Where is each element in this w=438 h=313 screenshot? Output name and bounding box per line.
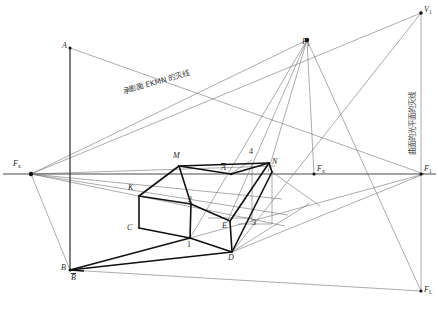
point-label-FL: FL bbox=[424, 286, 432, 294]
edge-C-1 bbox=[139, 228, 190, 238]
thin-construction-lines bbox=[31, 13, 424, 291]
shadow-B-to-1 bbox=[70, 238, 190, 270]
point-label-2: 2 bbox=[188, 196, 192, 204]
dot-Fx bbox=[29, 172, 33, 176]
point-label-Bbar: B bbox=[71, 273, 76, 282]
point-label-F1b: F1 bbox=[424, 165, 432, 173]
point-label-B: B bbox=[61, 264, 66, 272]
figure-canvas: 承影面 EKMN 的灭线 曲面的光平面的灭线 A B B Fx F1 V1 Fx… bbox=[0, 0, 438, 313]
shadow-base-bottom bbox=[70, 270, 84, 271]
ray-Fx-to-F1 bbox=[31, 40, 307, 174]
shadow-B-to-D bbox=[70, 252, 232, 270]
dot-B bbox=[69, 269, 72, 272]
ray-Fx-to-M bbox=[31, 166, 275, 174]
dot-Fx2 bbox=[312, 172, 315, 175]
point-label-Abar: A bbox=[221, 163, 226, 172]
ray-F1b-to-D bbox=[232, 174, 424, 252]
dot-V1 bbox=[419, 11, 423, 15]
ray-Fx-to-K bbox=[31, 174, 282, 199]
point-label-Fx: Fx bbox=[13, 160, 21, 168]
point-label-1: 1 bbox=[187, 241, 191, 249]
point-label-M: M bbox=[173, 152, 180, 160]
ray-B-to-FL bbox=[70, 270, 421, 291]
edge-2-K bbox=[139, 196, 191, 204]
dot-A bbox=[69, 47, 72, 50]
point-label-3: 3 bbox=[252, 219, 256, 227]
ray-F1-to-vertical bbox=[307, 40, 314, 174]
annotation-light-plane-vanishing-line: 曲面的光平面的灭线 bbox=[409, 92, 417, 155]
edge-1-2 bbox=[190, 204, 191, 238]
point-label-V1: V1 bbox=[424, 6, 432, 14]
ray-A-to-F1b bbox=[70, 48, 424, 174]
ray-F1-to-1 bbox=[190, 40, 307, 238]
edge-1-E-lower bbox=[190, 238, 232, 252]
edge-E-D bbox=[230, 221, 232, 252]
ground-shadow-outline bbox=[70, 238, 232, 271]
point-label-4: 4 bbox=[249, 148, 253, 156]
ray-Fx-to-V1 bbox=[31, 13, 421, 174]
edge-2-E bbox=[191, 204, 230, 221]
point-label-D: D bbox=[228, 254, 234, 262]
ray-V1-to-D bbox=[232, 13, 421, 252]
point-label-A: A bbox=[62, 42, 67, 50]
point-label-N: N bbox=[272, 158, 277, 166]
point-label-E: E bbox=[222, 222, 227, 230]
point-label-F1: F1 bbox=[302, 38, 310, 46]
ray-Fx-to-B bbox=[31, 174, 70, 270]
dot-1 bbox=[189, 237, 192, 240]
point-label-C: C bbox=[127, 224, 132, 232]
dot-Abar bbox=[230, 173, 233, 176]
dot-F1b bbox=[419, 172, 422, 175]
dot-FL bbox=[419, 289, 422, 292]
point-label-K: K bbox=[128, 184, 133, 192]
ray-F1-to-N bbox=[268, 40, 307, 172]
aux-N-to-FL-lower bbox=[272, 172, 320, 206]
point-label-Fx2: Fx bbox=[317, 165, 325, 173]
